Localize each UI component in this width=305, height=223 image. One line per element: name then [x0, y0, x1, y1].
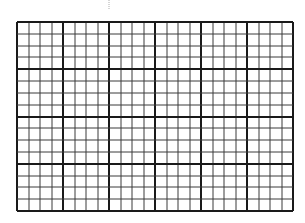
grid-lines [16, 21, 294, 212]
graph-paper-grid [16, 21, 292, 210]
faint-dotted-mark [108, 0, 110, 10]
